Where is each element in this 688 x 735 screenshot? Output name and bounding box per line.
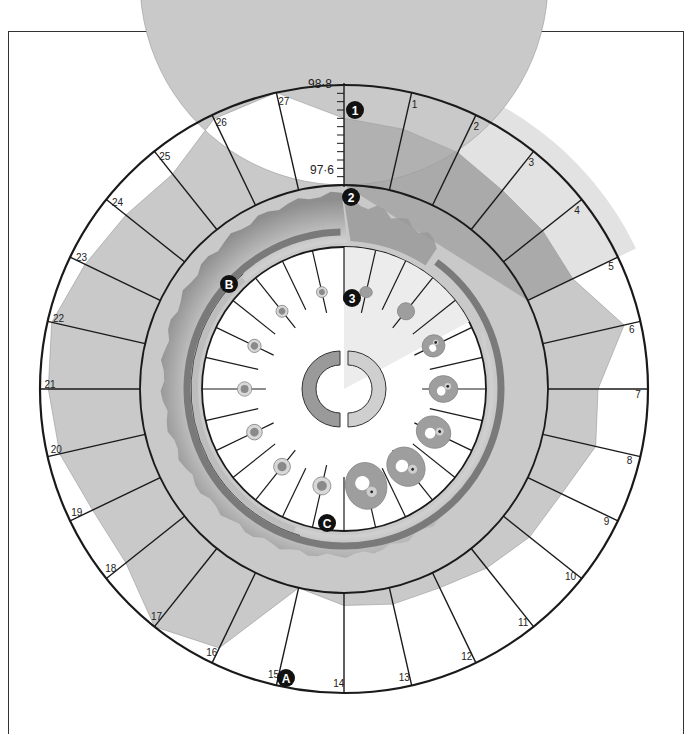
day-label-21: 21 xyxy=(44,379,56,390)
day-label-7: 7 xyxy=(635,389,641,400)
day-label-23: 23 xyxy=(76,252,88,263)
corpus-core xyxy=(241,385,249,393)
day-label-1: 1 xyxy=(412,99,418,110)
day-label-24: 24 xyxy=(112,197,124,208)
day-label-16: 16 xyxy=(206,647,218,658)
oocyte-nucleus xyxy=(446,385,449,388)
day-label-5: 5 xyxy=(608,261,614,272)
day-label-14: 14 xyxy=(333,678,345,689)
day-label-19: 19 xyxy=(71,507,83,518)
follicle xyxy=(429,376,458,403)
marker-label-2: 2 xyxy=(348,191,355,205)
day-label-2: 2 xyxy=(474,121,480,132)
scale-max-label: 98·8 xyxy=(308,77,332,91)
day-label-10: 10 xyxy=(565,571,577,582)
day-label-25: 25 xyxy=(159,151,171,162)
day-label-8: 8 xyxy=(627,455,633,466)
follicle xyxy=(237,382,251,396)
marker-label-C: C xyxy=(323,517,332,531)
day-label-11: 11 xyxy=(518,617,529,628)
day-label-18: 18 xyxy=(105,563,117,574)
day-label-3: 3 xyxy=(529,157,535,168)
antrum xyxy=(437,386,446,395)
marker-label-A: A xyxy=(282,672,291,686)
day-label-6: 6 xyxy=(629,324,635,335)
day-divider-13 xyxy=(389,588,411,685)
cycle-diagram: 1234567891011121314151617181920212223242… xyxy=(0,0,688,735)
day-label-20: 20 xyxy=(51,444,63,455)
marker-label-3: 3 xyxy=(349,292,356,306)
marker-label-B: B xyxy=(225,278,234,292)
day-label-9: 9 xyxy=(604,516,610,527)
day-divider-11 xyxy=(471,548,533,626)
day-label-22: 22 xyxy=(53,313,65,324)
day-label-12: 12 xyxy=(461,651,473,662)
scale-min-label: 97·6 xyxy=(310,163,334,177)
marker-label-1: 1 xyxy=(352,104,359,118)
day-label-4: 4 xyxy=(574,205,580,216)
day-label-17: 17 xyxy=(151,611,163,622)
day-label-27: 27 xyxy=(278,96,290,107)
day-divider-12 xyxy=(433,573,476,663)
day-label-13: 13 xyxy=(399,672,411,683)
day-label-26: 26 xyxy=(216,117,228,128)
